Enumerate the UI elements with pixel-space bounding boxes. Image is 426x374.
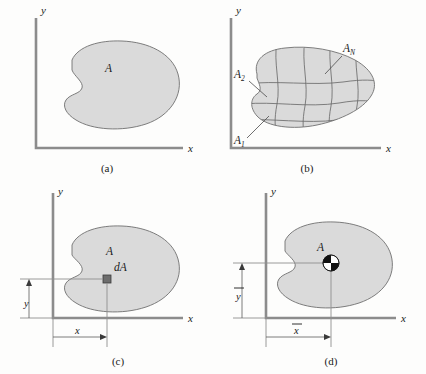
panel-d-caption: (d) xyxy=(325,355,338,368)
panel-c-x-axis-label: x xyxy=(187,312,193,324)
panel-b-element-label-a1: A1 xyxy=(233,134,245,149)
panel-c-differential-element xyxy=(103,275,111,283)
panel-a: y x A (a) xyxy=(0,0,213,187)
centroid-icon xyxy=(323,255,339,271)
panel-c-y-axis-label: y xyxy=(57,187,63,197)
panel-a-y-axis-label: y xyxy=(40,4,46,16)
panel-a-area-shape xyxy=(64,41,179,129)
figure-centroid-of-area: y x A (a) y x AN xyxy=(0,0,426,374)
panel-b-y-axis-label: y xyxy=(235,4,241,16)
panel-b-x-axis-label: x xyxy=(385,142,391,154)
panel-d-area-label: A xyxy=(316,241,325,253)
panel-c-x-dimension-label: x xyxy=(74,325,80,336)
panel-c-caption: (c) xyxy=(112,355,125,368)
panel-b-element-label-an: AN xyxy=(342,42,356,57)
panel-b-leader-a1 xyxy=(247,116,269,138)
panel-d-x-dimension-arrow xyxy=(324,334,331,340)
panel-a-x-axis-label: x xyxy=(187,142,193,154)
panel-b-caption: (b) xyxy=(301,162,314,175)
panel-c-y-dimension-arrow xyxy=(26,279,32,286)
panel-b: y x AN A2 A1 xyxy=(213,0,426,187)
panel-c-y-dimension-label: y xyxy=(23,298,29,309)
panel-d-y-dimension-label: y xyxy=(235,291,241,302)
panel-d-x-dimension-label: x xyxy=(293,325,299,336)
panel-d-y-dimension-arrow xyxy=(239,263,245,270)
panel-c-area-label: A xyxy=(105,245,114,257)
panel-a-caption: (a) xyxy=(101,162,114,175)
panel-d-y-axis-label: y xyxy=(270,187,276,197)
panel-b-area-shape xyxy=(252,47,375,127)
panel-c: y x A dA y x (c) xyxy=(0,187,213,374)
panel-b-element-label-a2: A2 xyxy=(233,68,245,83)
panel-c-x-dimension-arrow xyxy=(100,334,107,340)
panel-d-x-axis-label: x xyxy=(400,312,406,324)
panel-c-element-label: dA xyxy=(114,261,128,273)
panel-d: y x A y x (d) xyxy=(213,187,426,374)
panel-a-area-label: A xyxy=(104,62,113,74)
